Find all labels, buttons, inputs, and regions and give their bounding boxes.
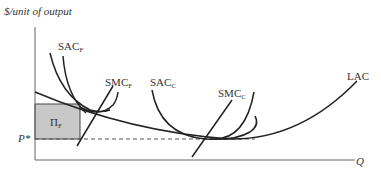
lac-label: LAC bbox=[347, 70, 369, 82]
smc-c-label: SMCC bbox=[218, 87, 246, 101]
cost-curve-diagram: $/unit of output Q P* ΠF SACF SMCF SACC … bbox=[0, 0, 381, 171]
price-label: P* bbox=[17, 132, 31, 144]
smc-f-label: SMCF bbox=[105, 76, 132, 90]
smc-c-line bbox=[192, 100, 232, 157]
x-axis-label: Q bbox=[356, 155, 364, 167]
sac-c-label: SACC bbox=[150, 76, 176, 90]
smc-f-line bbox=[77, 86, 113, 146]
sac-f-curve bbox=[50, 53, 110, 112]
smc-c-cup bbox=[210, 92, 254, 139]
sac-f-label: SACF bbox=[58, 40, 83, 54]
y-axis-label: $/unit of output bbox=[4, 5, 73, 17]
